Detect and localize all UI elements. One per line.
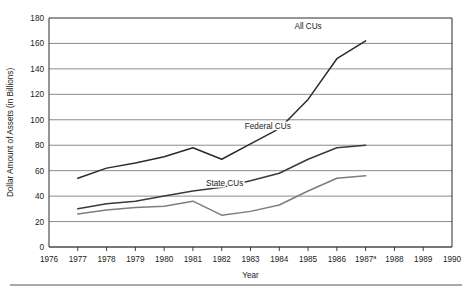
series-line-all-cus [78, 41, 366, 178]
line-chart-svg: 0204060801001201401601801976197719781979… [0, 0, 472, 293]
series-label-all-cus: All CUs [294, 22, 321, 31]
x-tick-label: 1990 [443, 255, 462, 264]
x-tick-label: 1979 [126, 255, 145, 264]
y-tick-label: 40 [35, 192, 45, 201]
series-line-federal-cus [78, 145, 366, 209]
x-tick-label: 1988 [385, 255, 404, 264]
x-tick-label: 1985 [299, 255, 318, 264]
y-tick-label: 100 [30, 116, 44, 125]
x-tick-label: 1989 [414, 255, 433, 264]
x-tick-label: 1981 [184, 255, 203, 264]
y-tick-label: 120 [30, 90, 44, 99]
y-tick-label: 80 [35, 141, 45, 150]
x-tick-label: 1986 [328, 255, 347, 264]
y-tick-label: 180 [30, 14, 44, 23]
y-tick-label: 140 [30, 65, 44, 74]
y-tick-label: 60 [35, 167, 45, 176]
x-tick-label: 1983 [241, 255, 260, 264]
x-tick-label: 1976 [40, 255, 59, 264]
chart-canvas: 0204060801001201401601801976197719781979… [0, 0, 472, 293]
y-tick-label: 0 [39, 243, 44, 252]
y-axis-title: Dollar Amount of Assets (in Billions) [6, 68, 15, 198]
x-tick-label: 1982 [213, 255, 232, 264]
x-tick-label: 1987a [355, 254, 376, 264]
y-tick-label: 20 [35, 218, 45, 227]
y-tick-label: 160 [30, 39, 44, 48]
chart-figure: 0204060801001201401601801976197719781979… [0, 0, 472, 293]
x-tick-label: 1978 [97, 255, 116, 264]
series-label-federal-cus: Federal CUs [245, 122, 291, 131]
x-tick-superscript: a [373, 254, 376, 260]
series-label-state-cus: State CUs [206, 179, 243, 188]
x-tick-label: 1980 [155, 255, 174, 264]
x-tick-label: 1984 [270, 255, 289, 264]
x-axis-title: Year [242, 271, 259, 280]
x-tick-label: 1977 [69, 255, 88, 264]
